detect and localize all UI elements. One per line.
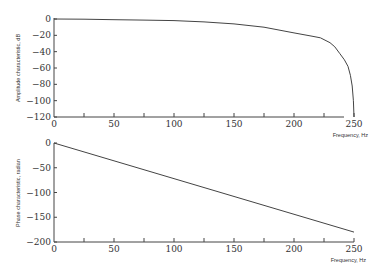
top-x-ticks: 050100150200250 — [51, 113, 363, 129]
x-tick-label: 50 — [108, 244, 120, 254]
top-x-axis-title: Frequency, Hz — [333, 132, 369, 138]
top-y-ticks: 0−20−40−60−80−100−120 — [26, 14, 57, 122]
y-tick-label: −40 — [32, 47, 51, 57]
x-tick-label: 150 — [225, 119, 242, 129]
phase-plot: 0−50−100−150−200 050100150200250 Phase c… — [15, 138, 366, 263]
y-tick-label: −100 — [26, 96, 51, 106]
x-tick-label: 0 — [51, 119, 57, 129]
y-tick-label: 0 — [45, 138, 51, 148]
x-tick-label: 200 — [285, 244, 302, 254]
x-tick-label: 100 — [165, 119, 182, 129]
y-tick-label: −20 — [32, 30, 51, 40]
x-tick-label: 250 — [345, 119, 362, 129]
y-tick-label: −80 — [32, 79, 51, 89]
y-tick-label: −100 — [26, 188, 51, 198]
phase-curve — [54, 143, 354, 232]
chart-canvas: 0−20−40−60−80−100−120 050100150200250 Am… — [0, 0, 375, 275]
x-tick-label: 0 — [51, 244, 57, 254]
amplitude-plot: 0−20−40−60−80−100−120 050100150200250 Am… — [15, 14, 368, 138]
top-y-axis-title: Amplitude characteristic, dB — [15, 34, 21, 102]
y-tick-label: −60 — [32, 63, 51, 73]
y-tick-label: −120 — [26, 112, 51, 122]
bottom-x-axis-title: Frequency, Hz — [331, 257, 367, 263]
x-tick-label: 250 — [345, 244, 362, 254]
bottom-y-ticks: 0−50−100−150−200 — [26, 138, 57, 247]
x-tick-label: 150 — [225, 244, 242, 254]
x-tick-label: 100 — [165, 244, 182, 254]
amplitude-curve — [54, 19, 354, 117]
bottom-y-axis-title: Phase characteristic, radian — [15, 159, 21, 227]
x-tick-label: 50 — [108, 119, 120, 129]
bottom-x-ticks: 050100150200250 — [51, 238, 363, 254]
y-tick-label: −200 — [26, 237, 51, 247]
x-tick-label: 200 — [285, 119, 302, 129]
y-tick-label: 0 — [45, 14, 51, 24]
y-tick-label: −50 — [32, 163, 51, 173]
y-tick-label: −150 — [26, 212, 51, 222]
